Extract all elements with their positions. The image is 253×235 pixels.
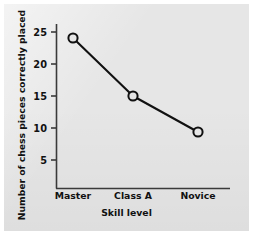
y-tick-label-25: 25 bbox=[22, 27, 47, 38]
y-tick-label-10: 10 bbox=[22, 123, 47, 134]
y-tick-label-5: 5 bbox=[22, 155, 47, 166]
x-tick-label-class-a: Class A bbox=[114, 190, 152, 201]
y-tick-label-15: 15 bbox=[22, 91, 47, 102]
y-tick-label-20: 20 bbox=[22, 59, 47, 70]
x-tick-label-novice: Novice bbox=[180, 190, 215, 201]
data-point-novice bbox=[193, 127, 202, 136]
y-axis-ticks bbox=[51, 32, 56, 160]
data-line-series-1 bbox=[73, 38, 198, 132]
chart-figure: 25 20 15 10 5 Master Class A Novice Numb… bbox=[0, 0, 253, 235]
x-axis-label: Skill level bbox=[0, 207, 253, 218]
data-point-class-a bbox=[128, 91, 137, 100]
x-tick-label-master: Master bbox=[55, 190, 91, 201]
data-point-master bbox=[68, 33, 77, 42]
